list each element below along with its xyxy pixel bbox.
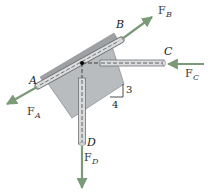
point-label-c: C bbox=[164, 45, 173, 58]
force-diagram: 3 4 A B C D F A F B F C F D bbox=[0, 0, 208, 192]
force-label-fc: F C bbox=[185, 67, 199, 82]
svg-text:F: F bbox=[27, 105, 35, 118]
svg-text:F: F bbox=[84, 151, 92, 164]
force-label-fa: F A bbox=[27, 105, 41, 120]
slope-run: 4 bbox=[112, 99, 118, 110]
svg-text:F: F bbox=[185, 67, 193, 80]
force-label-fb: F B bbox=[158, 4, 172, 19]
svg-text:D: D bbox=[91, 157, 99, 166]
point-label-b: B bbox=[115, 18, 124, 31]
svg-text:F: F bbox=[158, 4, 166, 17]
force-arrow-fb bbox=[122, 17, 152, 39]
junction-point bbox=[80, 61, 84, 65]
svg-text:B: B bbox=[165, 10, 172, 19]
point-label-a: A bbox=[28, 74, 37, 87]
force-label-fd: F D bbox=[84, 151, 99, 166]
point-label-d: D bbox=[86, 136, 96, 149]
slope-rise: 3 bbox=[126, 84, 132, 95]
svg-text:A: A bbox=[34, 111, 41, 120]
svg-text:C: C bbox=[193, 73, 199, 82]
force-arrow-fa bbox=[7, 87, 37, 104]
